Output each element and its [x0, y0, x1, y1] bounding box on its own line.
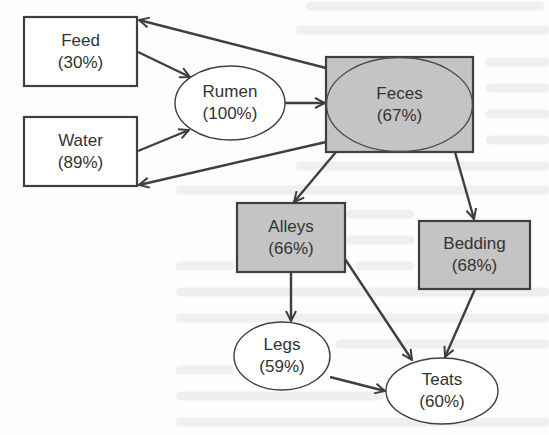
edge-legs-to-teats [330, 377, 385, 391]
edge-feces-to-bedding [455, 152, 474, 219]
edge-feces-to-alleys [294, 152, 336, 202]
edge-feces-to-water [139, 142, 326, 185]
node-teats-ellipse [386, 358, 498, 424]
flow-diagram [0, 0, 549, 435]
edge-feces-to-feed [139, 20, 326, 68]
node-water-box [24, 117, 137, 186]
diagram-canvas: Feed (30%) Water (89%) Rumen (100%) Fece… [0, 0, 549, 435]
edge-feed-to-rumen [138, 52, 190, 77]
node-legs-ellipse [234, 322, 330, 390]
node-feed-box [24, 17, 137, 86]
edge-alleys-to-teats [345, 259, 412, 360]
edge-bedding-to-teats [445, 289, 475, 357]
node-alleys-box [237, 203, 345, 272]
node-rumen-ellipse [175, 66, 285, 140]
edge-water-to-rumen [138, 130, 189, 151]
node-bedding-box [419, 221, 530, 289]
